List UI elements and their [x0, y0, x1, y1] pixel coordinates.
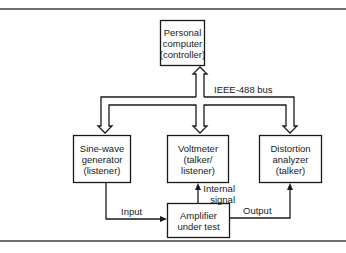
distortion-line-1: Distortion [270, 143, 310, 154]
pc-line-1: Personal [164, 27, 202, 38]
amplifier-line-1: Amplifier [180, 210, 217, 221]
distortion-line-2: analyzer [273, 154, 309, 165]
input-arrowhead [160, 216, 167, 222]
sine-line-2: generator [82, 154, 123, 165]
distortion-analyzer-node: Distortion analyzer (talker) [260, 136, 321, 182]
distortion-line-3: (talker) [276, 165, 306, 176]
sine-line-1: Sine-wave [80, 143, 124, 154]
bus-label: IEEE-488 bus [214, 84, 273, 95]
internal-signal-line-2: signal [203, 194, 235, 205]
bus-outer [98, 97, 297, 133]
internal-signal-arrowhead [195, 183, 201, 190]
amplifier-line-2: under test [177, 221, 219, 232]
input-label: Input [121, 206, 142, 217]
pc-line-3: (controller) [160, 49, 205, 60]
pc-line-2: computer [163, 38, 203, 49]
voltmeter-line-2: (talker/ [183, 154, 212, 165]
voltmeter-line-3: listener) [181, 165, 215, 176]
sine-line-3: (listener) [84, 165, 121, 176]
output-label: Output [243, 205, 272, 216]
sine-generator-node: Sine-wave generator (listener) [74, 136, 130, 182]
voltmeter-node: Voltmeter (talker/ listener) [168, 136, 228, 182]
pc-node: Personal computer (controller) [161, 21, 204, 65]
internal-signal-line-1: Internal [203, 183, 235, 194]
bus-trunk [193, 67, 207, 97]
internal-signal-label: Internal signal [203, 183, 235, 205]
output-arrowhead [287, 183, 293, 190]
voltmeter-line-1: Voltmeter [178, 143, 218, 154]
amplifier-node: Amplifier under test [168, 204, 229, 237]
